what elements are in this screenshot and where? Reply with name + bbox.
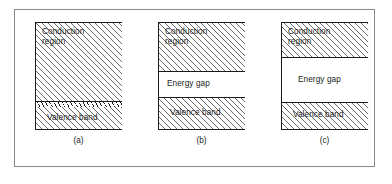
diagram-b: Conduction region Energy gap Valence ban… [158, 22, 245, 142]
diagram-b-conduction-label: Conduction region [165, 27, 207, 46]
diagram-b-energy-gap-label: Energy gap [167, 79, 210, 89]
diagram-c-valence-label: Valence band [293, 110, 344, 120]
band-structure-figure: Conduction region Valence band (a) Condu… [0, 0, 392, 184]
diagram-c: Conduction region Energy gap Valence ban… [281, 22, 368, 142]
diagram-a: Conduction region Valence band (a) [35, 22, 122, 142]
diagram-b-caption: (b) [158, 136, 245, 145]
diagram-b-valence-label: Valence band [170, 108, 221, 118]
diagram-a-conduction-label: Conduction region [42, 27, 84, 46]
diagram-c-conduction-label: Conduction region [288, 27, 330, 46]
diagram-c-caption: (c) [281, 136, 368, 145]
diagram-c-energy-gap-label: Energy gap [298, 75, 341, 85]
diagram-a-caption: (a) [35, 136, 122, 145]
figure-frame: Conduction region Valence band (a) Condu… [14, 9, 375, 167]
diagram-a-valence-label: Valence band [47, 113, 98, 123]
